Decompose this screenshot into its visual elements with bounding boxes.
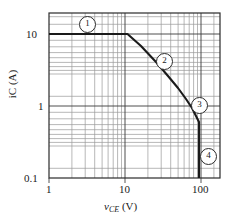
soa-chart-figure: 10 1 0.1 1 10 100 iC (A) vCE (V) 1 2 3 4 — [0, 0, 238, 220]
region-marker-2: 2 — [156, 53, 173, 70]
x-tick-label-100: 100 — [192, 184, 209, 195]
region-marker-4: 4 — [200, 148, 217, 165]
x-axis-title-subscript: CE — [109, 205, 119, 214]
y-tick-label-0-1: 0.1 — [24, 173, 38, 184]
y-axis-title-variable: i — [6, 95, 18, 98]
x-tick-label-1: 1 — [46, 184, 52, 195]
region-marker-3: 3 — [191, 97, 208, 114]
y-axis-title-wrap: iC (A) — [0, 0, 22, 170]
y-axis-title-unit: (A) — [6, 70, 18, 85]
y-tick-label-10: 10 — [26, 29, 37, 40]
x-tick-label-10: 10 — [119, 184, 130, 195]
x-axis-title-unit: (V) — [122, 200, 137, 212]
region-marker-1: 1 — [79, 16, 96, 33]
y-tick-label-1: 1 — [38, 101, 44, 112]
y-axis-title: iC (A) — [6, 44, 18, 124]
y-axis-title-subscript: C — [6, 88, 18, 95]
major-gridlines — [49, 13, 220, 178]
plot-frame — [49, 13, 220, 178]
x-axis-title: vCE (V) — [104, 201, 137, 214]
minor-vertical-gridlines — [72, 13, 214, 178]
